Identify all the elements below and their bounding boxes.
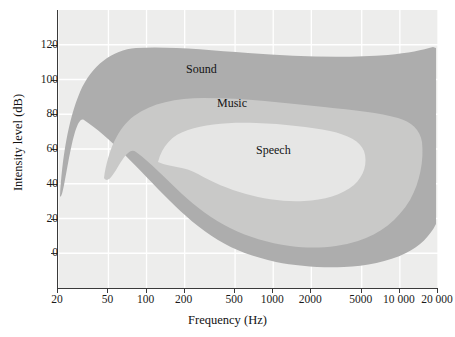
y-axis-title: Intensity level (dB) [11, 63, 26, 223]
y-axis-tick-label: 80 [47, 107, 59, 119]
x-axis-tick-label: 20 [51, 293, 63, 305]
y-axis-tick-label: 120 [41, 38, 58, 50]
region-label-sound: Sound [186, 62, 217, 77]
region-label-speech: Speech [256, 143, 291, 158]
y-axis-tick-label: 40 [47, 177, 59, 189]
x-axis-tick-label: 200 [175, 293, 192, 305]
x-axis-tick-label: 10 000 [383, 293, 415, 305]
y-axis-tick-label: 100 [41, 73, 58, 85]
x-axis-tick-label: 100 [137, 293, 154, 305]
x-axis-tick-label: 5000 [349, 293, 372, 305]
x-axis-tick-label: 500 [225, 293, 242, 305]
y-axis-tick-label: 0 [52, 246, 58, 258]
plot-area: Sound Music Speech [57, 10, 438, 289]
plot-canvas [58, 10, 438, 288]
audible-range-chart: Sound Music Speech 020406080100120205010… [0, 0, 455, 337]
x-axis-title: Frequency (Hz) [0, 313, 455, 328]
region-label-music: Music [217, 96, 247, 111]
x-axis-tick-label: 1000 [261, 293, 284, 305]
x-axis-tick-label: 2000 [299, 293, 322, 305]
y-axis-tick-label: 20 [47, 212, 59, 224]
y-axis-tick-label: 60 [47, 142, 59, 154]
x-axis-tick-label: 50 [102, 293, 114, 305]
x-axis-tick-label: 20 000 [421, 293, 453, 305]
